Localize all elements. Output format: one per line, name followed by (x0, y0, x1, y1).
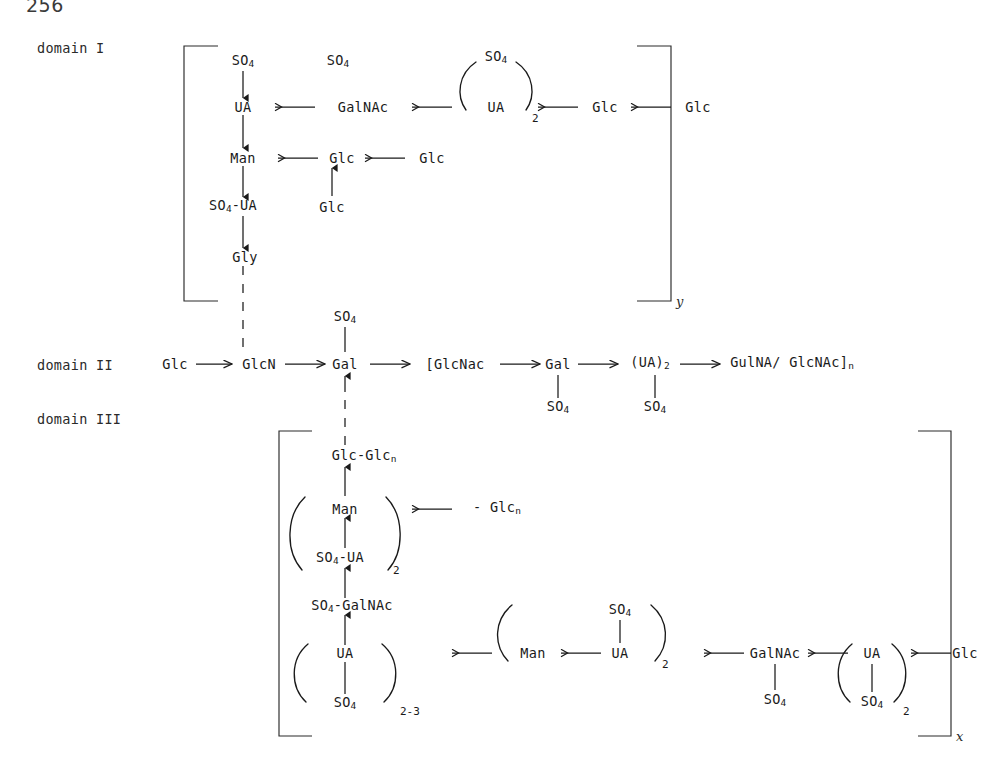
d1-ua: UA (235, 100, 252, 114)
d3-ua3-so4: SO4 (861, 694, 884, 713)
d3-ua-3: UA (864, 646, 881, 660)
d3-ua-2: UA (612, 646, 629, 660)
domain-label-three: domain III (37, 411, 121, 427)
d3-galnac: GalNAc (750, 646, 801, 660)
d3-so4-ua: SO4-UA (316, 550, 364, 569)
domain-three-paren-left-2 (294, 644, 308, 702)
d3-so4-galnac: SO4-GalNAc (311, 598, 393, 617)
d3-ua-count: 2-3 (400, 705, 420, 718)
d3-glc-end: Glc (952, 646, 977, 660)
d1-glc-1: Glc (592, 100, 617, 114)
d1-glc-2: Glc (685, 100, 710, 114)
d1-so4-top-paren: SO4 (485, 49, 508, 68)
d3-galnac-so4: SO4 (764, 692, 787, 711)
domain-label-one: domain I (37, 40, 104, 56)
d2-gal-2: Gal (545, 357, 570, 371)
d3-so4-ua-count: 2 (393, 564, 400, 577)
domain-three-paren-right-4 (892, 644, 906, 702)
d1-so4-ua: SO4-UA (209, 198, 257, 217)
d3-ua: UA (337, 646, 354, 660)
domain-one-bracket-subscript: y (676, 294, 683, 309)
d3-minus-glcn: - Glcn (473, 500, 521, 519)
domain-three-bracket-left (279, 431, 312, 736)
domain-three-bracket-subscript: x (956, 729, 963, 744)
d2-gal-1: Gal (332, 357, 357, 371)
d1-ua-paren: UA (488, 100, 505, 114)
diagram-linework (0, 0, 986, 773)
domain-three-paren-left-3 (498, 605, 512, 661)
d3-glc-glcn: Glc-Glcn (332, 448, 397, 467)
d2-glcnac-open: [GlcNac (426, 357, 485, 371)
d2-so4-below-gal2: SO4 (547, 399, 570, 418)
domain-label-two: domain II (37, 357, 113, 373)
d1-paren-count: 2 (532, 112, 539, 125)
d2-gulna-glcnac: GulNA/ GlcNAc]n (730, 355, 854, 374)
d1-so4-top-left: SO4 (232, 53, 255, 72)
domain-three-paren-left-1 (290, 497, 305, 570)
domain-three-paren-right-3 (651, 605, 665, 661)
d1-so4-top-mid: SO4 (327, 53, 350, 72)
d1-glc-branch: Glc (319, 200, 344, 214)
d3-ua3-count: 2 (903, 705, 910, 718)
d3-ua-so4: SO4 (334, 695, 357, 714)
d1-glc-4: Glc (419, 151, 444, 165)
d3-ua2-count: 2 (662, 658, 669, 671)
domain-one-paren-left (460, 62, 476, 110)
domain-one-bracket-left (184, 46, 218, 301)
d1-galnac: GalNAc (338, 100, 389, 114)
diagram-canvas: 256 (0, 0, 986, 773)
d3-ua2-so4: SO4 (609, 602, 632, 621)
d2-glcn: GlcN (242, 357, 276, 371)
domain-one-paren-right (516, 62, 532, 110)
d1-gly: Gly (232, 250, 257, 264)
d1-glc-3: Glc (329, 151, 354, 165)
d3-man-2: Man (520, 646, 545, 660)
d2-so4-below-ua2: SO4 (644, 399, 667, 418)
domain-three-bracket-right (918, 431, 951, 736)
d2-so4-above-gal: SO4 (334, 309, 357, 328)
d2-ua2: (UA)2 (630, 355, 669, 374)
d3-man: Man (332, 502, 357, 516)
d2-glc: Glc (162, 357, 187, 371)
domain-three-paren-right-2 (382, 644, 396, 702)
domain-one-bracket-right (637, 46, 671, 301)
d1-man: Man (230, 151, 255, 165)
domain-three-paren-right-1 (386, 497, 400, 570)
